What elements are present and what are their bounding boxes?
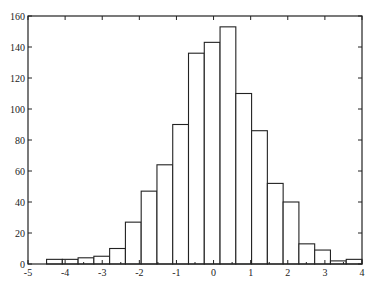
histogram-chart: -5-4-3-2-101234 020406080100120140160 <box>0 0 373 285</box>
histogram-bars <box>47 27 362 264</box>
histogram-bar <box>346 259 362 264</box>
histogram-bar <box>315 250 331 264</box>
y-tick-label: 80 <box>15 135 25 146</box>
y-tick-label: 20 <box>15 228 25 239</box>
histogram-bar <box>204 42 220 264</box>
histogram-bar <box>141 191 157 264</box>
y-tick-label: 140 <box>10 42 25 53</box>
x-tick-label: 1 <box>248 267 253 278</box>
x-tick-label: 0 <box>211 267 216 278</box>
histogram-bar <box>78 258 94 264</box>
histogram-bar <box>299 244 315 264</box>
histogram-bar <box>189 53 205 264</box>
histogram-bar <box>173 125 189 265</box>
x-tick-label: -5 <box>24 267 32 278</box>
histogram-bar <box>252 131 268 264</box>
histogram-bar <box>220 27 236 264</box>
x-tick-label: 3 <box>322 267 327 278</box>
histogram-bar <box>47 259 63 264</box>
y-axis-tick-labels: 020406080100120140160 <box>10 11 25 270</box>
histogram-bar <box>236 94 252 265</box>
y-tick-label: 40 <box>15 197 25 208</box>
y-tick-label: 0 <box>20 259 25 270</box>
y-tick-label: 100 <box>10 104 25 115</box>
y-tick-label: 60 <box>15 166 25 177</box>
y-tick-label: 120 <box>10 73 25 84</box>
histogram-bar <box>283 202 299 264</box>
x-tick-label: -3 <box>98 267 106 278</box>
x-tick-label: -4 <box>61 267 69 278</box>
x-tick-label: -2 <box>135 267 143 278</box>
y-tick-label: 160 <box>10 11 25 22</box>
histogram-bar <box>157 165 173 264</box>
x-tick-label: -1 <box>172 267 180 278</box>
histogram-bar <box>267 183 283 264</box>
histogram-bar <box>110 249 126 265</box>
x-tick-label: 2 <box>285 267 290 278</box>
histogram-bar <box>125 222 141 264</box>
x-axis-tick-labels: -5-4-3-2-101234 <box>24 267 365 278</box>
x-tick-label: 4 <box>360 267 365 278</box>
